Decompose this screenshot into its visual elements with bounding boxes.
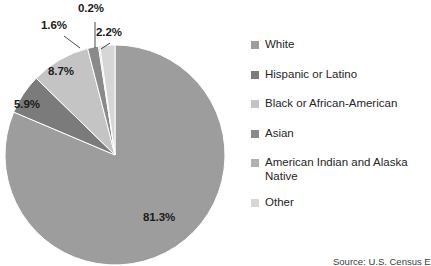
slice-label-other: 2.2%: [96, 26, 122, 38]
legend-label-asian: Asian: [265, 127, 294, 141]
legend-swatch-icon-american-indian-and-alaska-native: [251, 159, 259, 167]
legend-label-black-or-african-american: Black or African-American: [265, 97, 397, 111]
legend-item-other[interactable]: Other: [251, 196, 414, 210]
pie-plot-area: 81.3% 5.9% 8.7% 1.6% 0.2% 2.2%: [0, 0, 248, 266]
legend-item-asian[interactable]: Asian: [251, 127, 414, 141]
pie-graphic: [0, 0, 248, 266]
legend-item-hispanic-or-latino[interactable]: Hispanic or Latino: [251, 68, 414, 82]
legend-swatch-icon-hispanic-or-latino: [251, 71, 259, 79]
slice-label-white: 81.3%: [143, 211, 175, 223]
legend-swatch-icon-white: [251, 41, 259, 49]
slice-label-hispanic-or-latino: 5.9%: [14, 98, 40, 110]
legend-label-american-indian-and-alaska-native: American Indian and Alaska Native: [265, 156, 408, 183]
legend-label-white: White: [265, 38, 294, 52]
legend-label-other: Other: [265, 196, 294, 210]
legend-item-white[interactable]: White: [251, 38, 414, 52]
slice-label-american-indian-and-alaska-native: 0.2%: [78, 2, 104, 14]
legend-swatch-icon-black-or-african-american: [251, 100, 259, 108]
slice-label-asian: 1.6%: [41, 19, 67, 31]
legend-item-american-indian-and-alaska-native[interactable]: American Indian and Alaska Native: [251, 156, 414, 183]
legend-item-black-or-african-american[interactable]: Black or African-American: [251, 97, 414, 111]
legend-swatch-icon-asian: [251, 130, 259, 138]
leader-line-asian: [64, 36, 80, 48]
pie-slice-group: [5, 45, 225, 265]
slice-label-black-or-african-american: 8.7%: [48, 65, 74, 77]
legend: WhiteHispanic or LatinoBlack or African-…: [251, 38, 414, 223]
legend-swatch-icon-other: [251, 199, 259, 207]
source-note: Source: U.S. Census E: [333, 256, 431, 266]
legend-label-hispanic-or-latino: Hispanic or Latino: [265, 68, 357, 82]
